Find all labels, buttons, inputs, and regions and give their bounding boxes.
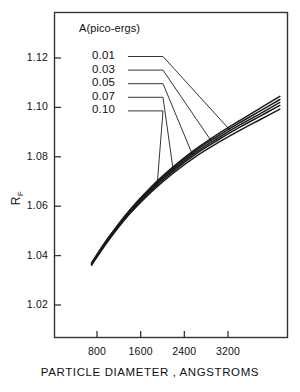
x-tick-label-1600: 1600 xyxy=(119,345,163,357)
x-tick-label-800: 800 xyxy=(75,345,119,357)
y-axis-label: RF xyxy=(9,175,25,205)
y-tick-label-1.02: 1.02 xyxy=(14,298,48,310)
legend-label-0.03: 0.03 xyxy=(92,63,115,75)
y-axis-label-subscript: F xyxy=(16,191,25,196)
y-tick-label-1.08: 1.08 xyxy=(14,150,48,162)
x-axis-label: PARTICLE DIAMETER , ANGSTROMS xyxy=(0,366,300,378)
y-tick-label-1.12: 1.12 xyxy=(14,51,48,63)
figure-container: 1.021.041.061.081.101.12 800160024003200… xyxy=(0,0,300,392)
y-axis-label-text: R xyxy=(9,196,23,205)
y-tick-label-1.04: 1.04 xyxy=(14,249,48,261)
legend-label-0.01: 0.01 xyxy=(92,49,115,61)
legend-title: A(pico-ergs) xyxy=(79,22,140,34)
legend-label-0.05: 0.05 xyxy=(92,76,115,88)
x-tick-label-2400: 2400 xyxy=(162,345,206,357)
x-tick-label-3200: 3200 xyxy=(206,345,250,357)
legend-label-0.07: 0.07 xyxy=(92,90,115,102)
legend-label-0.10: 0.10 xyxy=(92,103,115,115)
y-tick-label-1.10: 1.10 xyxy=(14,100,48,112)
